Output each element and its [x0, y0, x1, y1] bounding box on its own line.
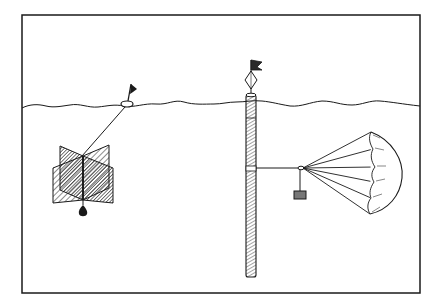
parachute-shroud-lines: [303, 132, 375, 214]
spar-top: [246, 93, 256, 97]
parachute-drogue: [370, 132, 402, 214]
teardrop-weight: [79, 205, 88, 216]
spar-flag: [251, 60, 262, 70]
spar-band-mid: [246, 166, 256, 171]
left-drogue-assembly: [53, 84, 137, 216]
float-flag: [130, 84, 137, 94]
drogue-illustration: [0, 0, 439, 306]
border-frame: [22, 15, 420, 293]
cross-vane-front-left: [53, 156, 83, 203]
spar-buoy: [246, 95, 256, 277]
surface-float: [121, 101, 133, 107]
hanging-weight: [294, 191, 306, 199]
wavy-waterline: [22, 101, 420, 108]
right-drogue-assembly: [245, 60, 402, 277]
